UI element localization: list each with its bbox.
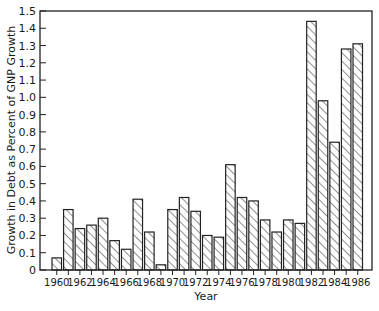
x-axis: 1960196219641966196819701972197419761978… [44, 270, 370, 288]
x-tick-label: 1980 [276, 277, 301, 288]
x-tick-label: 1964 [90, 277, 115, 288]
bar-1972 [191, 211, 201, 270]
bar-1964 [98, 218, 108, 270]
y-tick-label: 0.6 [19, 160, 37, 173]
x-tick-label: 1974 [206, 277, 231, 288]
y-tick-label: 0.7 [19, 143, 37, 156]
bar-1962 [75, 229, 85, 270]
bar-1961 [64, 210, 73, 270]
bar-1968 [145, 232, 155, 270]
y-tick-label: 1.3 [19, 40, 37, 53]
y-axis: 00.10.20.30.40.50.60.70.80.91.01.11.21.3… [19, 5, 47, 277]
x-tick-label: 1962 [67, 277, 92, 288]
bar-1983 [318, 101, 328, 270]
bar-1960 [52, 258, 62, 270]
bar-1979 [272, 232, 282, 270]
y-axis-label: Growth in Debt as Percent of GNP Growth [5, 26, 18, 255]
bar-1986 [353, 44, 363, 270]
x-tick-label: 1978 [252, 277, 277, 288]
bar-1980 [284, 220, 294, 270]
bar-1973 [203, 235, 213, 270]
bar-1977 [249, 201, 258, 270]
y-tick-label: 0 [29, 264, 36, 277]
bar-1982 [307, 21, 317, 270]
bar-1974 [214, 237, 224, 270]
bar-1984 [330, 142, 340, 270]
x-axis-label: Year [194, 290, 217, 303]
bars [52, 21, 363, 270]
bar-1975 [226, 165, 236, 270]
y-tick-label: 0.3 [19, 212, 37, 225]
y-tick-label: 0.8 [19, 126, 37, 139]
x-tick-label: 1986 [345, 277, 370, 288]
y-tick-label: 1.1 [19, 74, 37, 87]
bar-1965 [110, 241, 120, 270]
x-tick-label: 1984 [322, 277, 347, 288]
y-tick-label: 0.5 [19, 178, 37, 191]
bar-1966 [121, 249, 131, 270]
y-tick-label: 1.0 [19, 91, 37, 104]
bar-1978 [260, 220, 270, 270]
x-tick-label: 1970 [160, 277, 185, 288]
x-tick-label: 1976 [229, 277, 254, 288]
y-tick-label: 1.2 [19, 57, 37, 70]
y-tick-label: 1.4 [19, 22, 37, 35]
bar-1967 [133, 199, 143, 270]
x-tick-label: 1960 [44, 277, 69, 288]
bar-1971 [179, 197, 189, 270]
x-tick-label: 1972 [183, 277, 208, 288]
bar-1981 [295, 223, 305, 270]
bar-1976 [237, 197, 247, 270]
y-tick-label: 0.1 [19, 247, 37, 260]
bar-1969 [156, 265, 166, 270]
y-tick-label: 0.9 [19, 109, 37, 122]
x-tick-label: 1968 [137, 277, 162, 288]
y-tick-label: 0.2 [19, 229, 37, 242]
bar-1985 [341, 49, 351, 270]
bar-chart: 00.10.20.30.40.50.60.70.80.91.01.11.21.3… [0, 0, 379, 311]
x-tick-label: 1966 [113, 277, 138, 288]
x-tick-label: 1982 [299, 277, 324, 288]
bar-1963 [87, 225, 97, 270]
y-tick-label: 0.4 [19, 195, 37, 208]
bar-1970 [168, 210, 178, 270]
y-tick-label: 1.5 [19, 5, 37, 18]
